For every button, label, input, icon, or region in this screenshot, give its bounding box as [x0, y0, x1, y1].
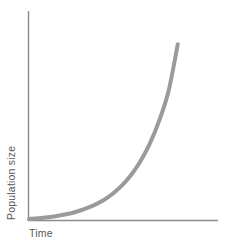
x-axis-label: Time	[29, 228, 53, 239]
cropped-caption-sliver	[0, 245, 225, 250]
exponential-growth-curve	[29, 44, 178, 219]
chart-canvas	[0, 0, 225, 250]
exponential-growth-chart: Population size Time	[0, 0, 225, 250]
y-axis-label: Population size	[6, 146, 17, 220]
